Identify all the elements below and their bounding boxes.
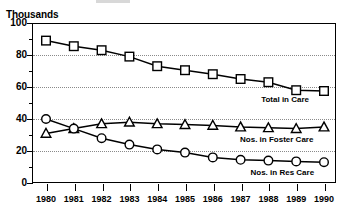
series-layer	[0, 0, 345, 214]
data-point-circle	[42, 115, 51, 124]
x-axis-label: 1990	[314, 194, 334, 204]
y-axis-label: 20	[3, 145, 27, 156]
data-point-square	[181, 66, 190, 75]
data-point-square	[209, 70, 218, 79]
series-annotation-1: Nos. in Foster Care	[240, 135, 313, 144]
x-axis-label: 1988	[258, 194, 278, 204]
x-axis-label: 1982	[92, 194, 112, 204]
series-annotation-2: Nos. in Res Care	[251, 168, 315, 177]
data-point-circle	[264, 156, 273, 165]
x-axis-label: 1985	[175, 194, 195, 204]
x-axis-label: 1987	[231, 194, 251, 204]
y-axis-label: 60	[3, 81, 27, 92]
data-point-square	[320, 87, 329, 96]
data-point-square	[292, 86, 301, 95]
data-point-circle	[125, 140, 134, 149]
x-axis-label: 1983	[119, 194, 139, 204]
y-axis-label: 80	[3, 49, 27, 60]
y-axis-label: 100	[3, 17, 27, 28]
data-point-circle	[320, 158, 329, 167]
data-point-square	[236, 75, 245, 84]
data-point-circle	[97, 134, 106, 143]
data-point-square	[42, 36, 51, 45]
data-point-circle	[70, 124, 79, 133]
data-point-circle	[209, 153, 218, 162]
data-point-square	[264, 78, 273, 87]
data-point-circle	[181, 148, 190, 157]
data-point-square	[97, 46, 106, 55]
x-axis-label: 1980	[36, 194, 56, 204]
data-point-square	[125, 52, 134, 61]
x-axis-label: 1989	[286, 194, 306, 204]
data-point-square	[153, 62, 162, 71]
y-axis-label: 40	[3, 113, 27, 124]
x-axis-label: 1986	[203, 194, 223, 204]
x-axis-label: 1984	[147, 194, 167, 204]
data-point-circle	[236, 156, 245, 165]
data-point-circle	[153, 145, 162, 154]
x-axis-label: 1981	[64, 194, 84, 204]
y-axis-label: 0	[3, 177, 27, 188]
data-point-square	[70, 42, 79, 51]
data-point-circle	[292, 157, 301, 166]
series-annotation-0: Total in Care	[261, 95, 309, 104]
chart-figure: Thousands 100806040200198019811982198319…	[0, 0, 345, 214]
